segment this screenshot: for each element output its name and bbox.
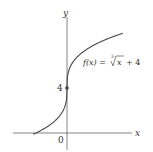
function-curve (33, 33, 123, 134)
point-0-4 (65, 86, 69, 90)
y-tick-4: 4 (57, 83, 63, 93)
graph: y x 4 0 f(x) = 3 x + 4 (0, 0, 153, 152)
function-rhs: + 4 (126, 58, 140, 67)
origin-label: 0 (58, 135, 64, 145)
root-index: 3 (111, 54, 114, 59)
function-label: f(x) = 3 x + 4 (82, 54, 140, 67)
radicand: x (117, 58, 122, 67)
function-lhs: f(x) = (82, 58, 106, 67)
y-axis-label: y (62, 8, 69, 18)
x-axis-label: x (135, 128, 140, 138)
